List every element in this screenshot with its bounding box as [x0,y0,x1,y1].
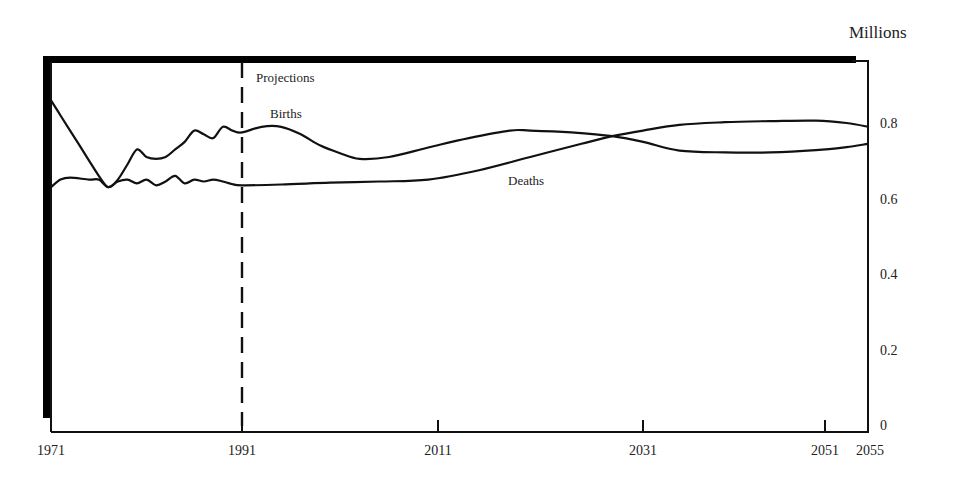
y-tick-label: 0 [880,418,887,433]
unit-label: Millions [849,23,907,42]
x-tick-label: 2011 [424,443,451,458]
series-line-deaths [51,121,868,188]
y-axis-ticks: 00.20.40.60.8 [880,116,898,433]
x-tick-label: 2055 [856,443,884,458]
y-tick-label: 0.6 [880,192,898,207]
population-chart: 197119912011203120512055 00.20.40.60.8 M… [0,0,956,477]
y-tick-label: 0.4 [880,267,898,282]
projections-label: Projections [256,70,315,85]
x-axis-ticks: 197119912011203120512055 [37,420,884,458]
y-tick-label: 0.8 [880,116,898,131]
x-tick-label: 1971 [37,443,65,458]
frame-shadow-top [43,56,856,63]
y-tick-label: 0.2 [880,343,898,358]
deaths-label: Deaths [508,173,544,188]
x-tick-label: 1991 [228,443,256,458]
x-tick-label: 2051 [811,443,839,458]
x-tick-label: 2031 [629,443,657,458]
series-layer [51,100,868,187]
births-label: Births [270,106,302,121]
